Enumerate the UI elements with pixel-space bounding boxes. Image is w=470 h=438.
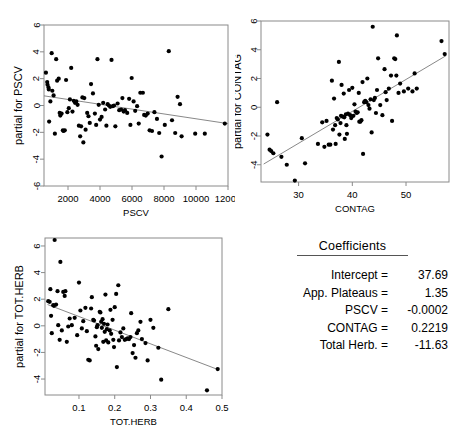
x-tick-label: 6000 <box>121 193 142 204</box>
data-point <box>170 118 174 122</box>
data-point <box>108 308 112 312</box>
data-point <box>155 117 159 121</box>
data-point <box>132 343 136 347</box>
y-tick-label: -2 <box>248 132 259 140</box>
data-point <box>68 97 72 101</box>
data-point <box>65 340 69 344</box>
figure-root: 20004000600080001000012000-6-4-20246PSCV… <box>0 0 470 438</box>
plot-frame <box>261 21 449 182</box>
data-point <box>130 76 134 80</box>
data-point <box>378 103 382 107</box>
data-point <box>109 58 113 62</box>
data-point <box>173 131 177 135</box>
scatter-plot-contag: 304050-4-20246CONTAGpartial for CONTAG <box>235 0 470 219</box>
data-point <box>54 57 58 61</box>
data-point <box>203 132 207 136</box>
data-point <box>114 292 118 296</box>
data-point <box>83 306 87 310</box>
data-point <box>322 145 326 149</box>
x-tick-label: 0.4 <box>180 402 193 413</box>
data-point <box>95 57 99 61</box>
data-point <box>63 289 67 293</box>
data-point <box>112 103 116 107</box>
coefficient-value: 0.2219 <box>388 321 448 335</box>
data-point <box>343 137 347 141</box>
data-point <box>320 120 324 124</box>
data-point <box>98 310 102 314</box>
data-point <box>44 71 48 75</box>
data-point <box>75 333 79 337</box>
data-point <box>151 326 155 330</box>
data-point <box>352 102 356 106</box>
data-point <box>70 109 74 113</box>
data-point <box>166 307 170 311</box>
coefficient-row: CONTAG =0.2219 <box>235 321 448 335</box>
data-point <box>70 323 74 327</box>
data-point <box>193 132 197 136</box>
coefficient-value: 37.69 <box>388 268 448 282</box>
data-point <box>80 326 84 330</box>
data-point <box>150 129 154 133</box>
data-point <box>415 86 419 90</box>
data-point <box>375 88 379 92</box>
data-point <box>53 132 57 136</box>
data-point <box>129 311 133 315</box>
data-point <box>334 142 338 146</box>
data-point <box>53 238 57 242</box>
data-point <box>330 79 334 83</box>
data-point <box>357 91 361 95</box>
coefficient-row: PSCV =-0.0002 <box>235 303 448 317</box>
data-point <box>300 136 304 140</box>
data-point <box>68 316 72 320</box>
x-tick-label: 0.3 <box>144 402 157 413</box>
data-point <box>128 123 132 127</box>
data-point <box>125 111 129 115</box>
data-point <box>367 107 371 111</box>
data-point <box>109 332 113 336</box>
data-point <box>167 49 171 53</box>
data-point <box>376 56 380 60</box>
y-axis-label: partial for TOT.HERB <box>13 265 25 368</box>
data-point <box>373 96 377 100</box>
data-point <box>275 100 279 104</box>
data-point <box>116 101 120 105</box>
coefficients-title: Coefficients <box>297 239 408 256</box>
data-point <box>121 326 125 330</box>
data-point <box>337 132 341 136</box>
data-point <box>265 132 269 136</box>
data-point <box>97 103 101 107</box>
data-point <box>361 152 365 156</box>
x-tick-label: 4000 <box>89 193 110 204</box>
data-point <box>157 131 161 135</box>
y-tick-label: 4 <box>248 47 259 52</box>
data-point <box>148 318 152 322</box>
data-point <box>64 78 68 82</box>
data-point <box>350 86 354 90</box>
data-point <box>332 97 336 101</box>
y-tick-label: 2 <box>32 297 43 302</box>
data-points <box>265 25 446 183</box>
data-point <box>159 378 163 382</box>
data-point <box>132 99 136 103</box>
data-point <box>90 295 94 299</box>
data-point <box>279 155 283 159</box>
data-point <box>50 89 54 93</box>
data-point <box>382 67 386 71</box>
data-point <box>63 128 67 132</box>
data-point <box>163 123 167 127</box>
y-tick-label: 2 <box>248 76 259 81</box>
x-axis-label: PSCV <box>123 207 150 218</box>
coefficient-label: CONTAG = <box>327 321 388 335</box>
data-point <box>180 134 184 138</box>
data-point <box>78 308 82 312</box>
data-point <box>86 114 90 118</box>
x-tick-label: 0.2 <box>108 402 121 413</box>
x-tick-label: 40 <box>347 189 358 200</box>
data-point <box>336 117 340 121</box>
data-point <box>81 319 85 323</box>
data-point <box>58 260 62 264</box>
data-point <box>96 347 100 351</box>
data-point <box>116 283 120 287</box>
data-point <box>77 280 81 284</box>
data-point <box>100 317 104 321</box>
